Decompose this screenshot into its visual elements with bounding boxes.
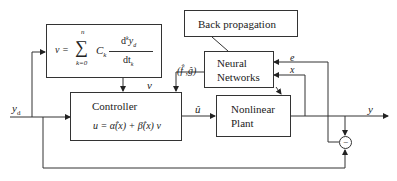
minus-sign: − bbox=[343, 138, 348, 147]
fraction-numerator: dkyd bbox=[121, 35, 136, 48]
reference-model-formula: v = bbox=[55, 44, 69, 55]
fraction-bar bbox=[109, 51, 153, 52]
fraction-denominator: dtk bbox=[123, 55, 133, 67]
reference-model-block: v = n ∑ k=0 Ck dkyd dtk bbox=[46, 24, 162, 78]
summing-junction: − bbox=[339, 136, 352, 149]
plant-label-line2: Plant bbox=[231, 118, 254, 129]
signal-e-label: e bbox=[290, 53, 294, 63]
sum-lower-limit: k=0 bbox=[76, 60, 87, 67]
back-propagation-block: Back propagation bbox=[184, 10, 298, 37]
signal-v-label: v bbox=[147, 80, 152, 91]
neural-networks-label-line1: Neural bbox=[217, 58, 247, 69]
formula-lhs: v = bbox=[55, 44, 69, 55]
signal-u-hat-label: û bbox=[195, 104, 201, 115]
controller-block: Controller u = α̂(x) + β̂(x) v bbox=[70, 92, 182, 141]
neural-networks-block: Neural Networks bbox=[204, 51, 274, 88]
neural-networks-label-line2: Networks bbox=[217, 72, 260, 83]
sum-symbol: ∑ bbox=[75, 38, 88, 56]
sum-upper-limit: n bbox=[81, 29, 85, 36]
signal-x-label: x bbox=[290, 65, 294, 75]
nonlinear-plant-block: Nonlinear Plant bbox=[216, 95, 291, 137]
back-propagation-label: Back propagation bbox=[198, 19, 276, 30]
signal-fg-label: (f̂ ,ĝ) bbox=[177, 66, 196, 76]
control-law: u = α̂(x) + β̂(x) v bbox=[93, 121, 161, 131]
signal-y-label: y bbox=[368, 104, 373, 115]
coefficient: Ck bbox=[96, 45, 106, 59]
controller-label: Controller bbox=[92, 101, 137, 112]
signal-yd-label: yd bbox=[12, 103, 20, 117]
plant-label-line1: Nonlinear bbox=[231, 104, 275, 115]
